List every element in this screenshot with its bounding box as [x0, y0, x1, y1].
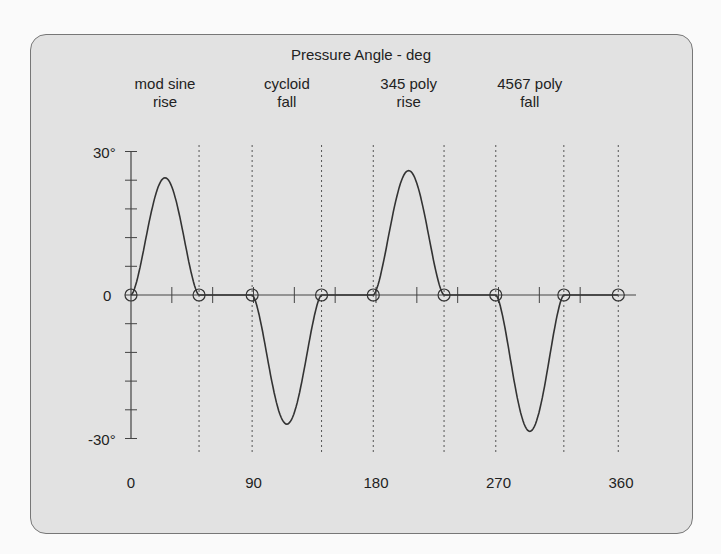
segment-label: 4567 poly: [497, 75, 563, 92]
segment-label: cycloid: [264, 75, 310, 92]
x-tick-label: 0: [127, 474, 135, 491]
chart-title: Pressure Angle - deg: [291, 46, 431, 63]
segment-label: rise: [397, 93, 421, 110]
x-tick-label: 270: [486, 474, 511, 491]
x-tick-label: 360: [608, 474, 633, 491]
segment-label: 345 poly: [380, 75, 437, 92]
segment-label: fall: [277, 93, 296, 110]
segment-label: mod sine: [135, 75, 196, 92]
segment-label: rise: [153, 93, 177, 110]
x-tick-label: 90: [245, 474, 262, 491]
x-tick-label: 180: [363, 474, 388, 491]
segment-label: fall: [520, 93, 539, 110]
y-tick-label: 30°: [93, 144, 116, 161]
pressure-angle-chart: Pressure Angle - degmod sinerisecycloidf…: [0, 0, 721, 554]
y-tick-label: -30°: [88, 431, 116, 448]
y-tick-label: 0: [103, 287, 111, 304]
